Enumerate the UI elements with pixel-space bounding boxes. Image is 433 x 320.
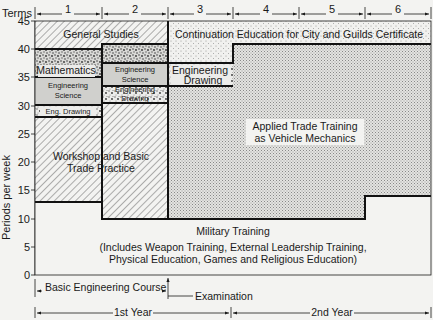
y-tick-40: 40 xyxy=(18,43,30,55)
y-tick-20: 20 xyxy=(18,156,30,168)
eng-drawing-t3-label-2: Drawing xyxy=(184,74,223,86)
term-4-label: 4 xyxy=(263,3,269,15)
year-2-label: 2nd Year xyxy=(311,306,353,318)
term-2-label: 2 xyxy=(132,3,138,15)
military-note-line-2: Physical Education, Games and Religious … xyxy=(109,253,357,265)
term-1-label: 1 xyxy=(65,3,71,15)
eng-drawing-t1-label: Eng. Drawing xyxy=(45,107,90,116)
y-tick-5: 5 xyxy=(24,241,30,253)
term-5-label: 5 xyxy=(329,3,335,15)
term-3-label: 3 xyxy=(197,3,203,15)
terms-header: Terms 1 2 3 4 5 xyxy=(2,3,431,19)
training-schedule-diagram: Terms 1 2 3 4 5 xyxy=(0,0,433,320)
year-1-label: 1st Year xyxy=(114,306,152,318)
eng-science-t1-label-1: Engineering xyxy=(48,81,88,90)
eng-science-t2-label-2: Science xyxy=(122,75,149,84)
eng-science-t2-label-1: Engineering xyxy=(115,65,155,74)
mathematics-label: Mathematics xyxy=(36,64,96,76)
y-tick-45: 45 xyxy=(18,15,30,27)
military-training-label: Military Training xyxy=(196,225,270,237)
continuation-label: Continuation Education for City and Guil… xyxy=(175,28,423,40)
basic-course-label: Basic Engineering Course xyxy=(45,281,167,293)
eng-science-t1-label-2: Science xyxy=(55,91,82,100)
y-tick-35: 35 xyxy=(18,71,30,83)
applied-trade-label-1: Applied Trade Training xyxy=(252,120,357,132)
y-axis: 45 40 35 30 25 20 15 10 5 0 Periods per … xyxy=(0,15,35,281)
y-tick-15: 15 xyxy=(18,184,30,196)
y-tick-0: 0 xyxy=(24,269,30,281)
y-tick-10: 10 xyxy=(18,213,30,225)
applied-trade-label-2: as Vehicle Mechanics xyxy=(255,132,356,144)
workshop-label-2: Trade Practice xyxy=(67,162,135,174)
y-tick-25: 25 xyxy=(18,128,30,140)
workshop-label-1: Workshop and Basic xyxy=(53,150,149,162)
term-6-label: 6 xyxy=(395,3,401,15)
y-axis-label: Periods per week xyxy=(0,155,12,240)
eng-drawing-t2-label-1: Engineering xyxy=(115,85,155,94)
y-tick-30: 30 xyxy=(18,100,30,112)
eng-drawing-t2-label-2: Drawing xyxy=(121,94,149,103)
examination-label: Examination xyxy=(195,290,253,302)
general-studies-label: General Studies xyxy=(63,28,138,40)
military-note-line-1: (Includes Weapon Training, External Lead… xyxy=(99,241,366,253)
